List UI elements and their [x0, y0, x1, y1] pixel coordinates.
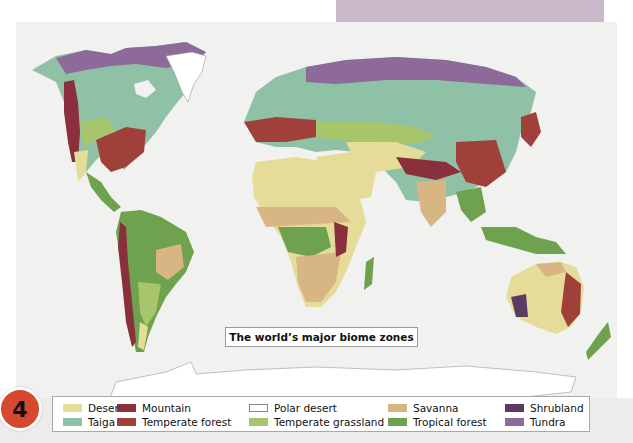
legend-label: Mountain	[142, 402, 191, 414]
legend-item-polar-desert: Polar desert	[249, 402, 337, 414]
antarctica	[110, 362, 576, 398]
legend-item-savanna: Savanna	[388, 402, 459, 414]
legend-label: Tropical forest	[413, 416, 487, 428]
temperate-forest-swatch-icon	[117, 418, 136, 426]
desert-swatch-icon	[63, 404, 82, 412]
legend-item-desert: Desert	[63, 402, 123, 414]
legend-item-mountain: Mountain	[117, 402, 191, 414]
south-america	[116, 210, 194, 352]
taiga-swatch-icon	[63, 418, 82, 426]
legend-label: Tundra	[530, 416, 566, 428]
tundra-swatch-icon	[505, 418, 524, 426]
australia	[506, 262, 611, 360]
temperate-grassland-swatch-icon	[249, 418, 268, 426]
legend-item-temperate-forest: Temperate forest	[117, 416, 231, 428]
legend-label: Shrubland	[530, 402, 584, 414]
legend-label: Savanna	[413, 402, 459, 414]
map-legend: Desert Taiga Mountain Temperate forest P…	[52, 396, 590, 432]
legend-label: Polar desert	[274, 402, 337, 414]
mountain-swatch-icon	[117, 404, 136, 412]
legend-item-tundra: Tundra	[505, 416, 566, 428]
world-biome-map: The world’s major biome zones	[16, 22, 617, 398]
tropical-forest-swatch-icon	[388, 418, 407, 426]
polar-desert-swatch-icon	[249, 404, 268, 412]
north-america	[32, 42, 206, 212]
map-title: The world’s major biome zones	[225, 327, 418, 347]
legend-item-temperate-grassland: Temperate grassland	[249, 416, 384, 428]
header-tab	[336, 0, 604, 22]
shrubland-swatch-icon	[505, 404, 524, 412]
page-number-badge: 4	[0, 387, 42, 431]
legend-label: Taiga	[88, 416, 115, 428]
savanna-swatch-icon	[388, 404, 407, 412]
legend-item-shrubland: Shrubland	[505, 402, 584, 414]
legend-item-taiga: Taiga	[63, 416, 115, 428]
southeast-asia	[481, 227, 566, 254]
legend-label: Temperate grassland	[274, 416, 384, 428]
legend-item-tropical-forest: Tropical forest	[388, 416, 487, 428]
legend-label: Temperate forest	[142, 416, 231, 428]
